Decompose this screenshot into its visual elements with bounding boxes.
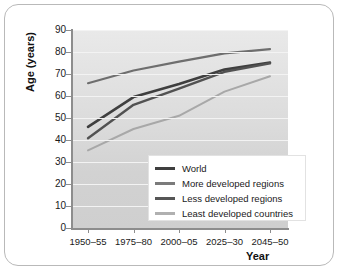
- x-axis-tick: [225, 228, 226, 233]
- gridline: [72, 140, 288, 141]
- x-axis-tick-label: 1975–80: [115, 236, 152, 247]
- y-axis-tick-label: 30: [40, 157, 66, 167]
- y-axis-tick-label: 40: [40, 135, 66, 145]
- chart-legend: WorldMore developed regionsLess develope…: [148, 155, 306, 221]
- legend-item-label: World: [182, 163, 207, 174]
- y-axis-tick: [66, 96, 72, 97]
- y-axis-line: [71, 29, 73, 229]
- gridline: [72, 74, 288, 75]
- legend-swatch-icon: [155, 167, 175, 170]
- x-axis-tick: [179, 228, 180, 233]
- legend-swatch-icon: [155, 182, 175, 185]
- legend-item[interactable]: More developed regions: [155, 176, 299, 191]
- x-axis-title: Year: [246, 250, 269, 262]
- legend-item[interactable]: Less developed regions: [155, 191, 299, 206]
- y-axis-tick: [66, 74, 72, 75]
- gridline: [72, 118, 288, 119]
- x-axis-tick: [134, 228, 135, 233]
- y-axis-tick: [66, 162, 72, 163]
- y-axis-tick-label: 80: [40, 47, 66, 57]
- y-axis-tick: [66, 206, 72, 207]
- legend-swatch-icon: [155, 197, 175, 200]
- legend-item[interactable]: Least developed countries: [155, 206, 299, 221]
- legend-swatch-icon: [155, 212, 175, 214]
- y-axis-tick-label: 20: [40, 179, 66, 189]
- y-axis-tick: [66, 228, 72, 229]
- x-axis-tick-label: 2025–30: [206, 236, 243, 247]
- legend-item-label: Less developed regions: [182, 193, 282, 204]
- y-axis-tick-label: 60: [40, 91, 66, 101]
- y-axis-tick: [66, 118, 72, 119]
- gridline: [72, 30, 288, 31]
- y-axis-tick-label: 50: [40, 113, 66, 123]
- legend-item[interactable]: World: [155, 161, 299, 176]
- y-axis-tick: [66, 30, 72, 31]
- y-axis-tick: [66, 52, 72, 53]
- y-axis-tick: [66, 184, 72, 185]
- x-axis-line: [71, 228, 289, 230]
- x-axis-tick: [88, 228, 89, 233]
- y-axis-tick-label: 90: [40, 25, 66, 35]
- figure: Age (years) 0102030405060708090 1950–551…: [0, 0, 344, 278]
- x-axis-tick-label: 1950–55: [70, 236, 107, 247]
- legend-item-label: Least developed countries: [182, 208, 293, 219]
- x-axis-tick-label: 2000–05: [161, 236, 198, 247]
- gridline: [72, 52, 288, 53]
- y-axis-tick-label: 10: [40, 201, 66, 211]
- y-axis-tick: [66, 140, 72, 141]
- y-axis-title: Age (years): [24, 17, 36, 107]
- y-axis-tick-label: 0: [40, 223, 66, 233]
- x-axis-tick: [270, 228, 271, 233]
- y-axis-tick-label: 70: [40, 69, 66, 79]
- x-axis-tick-label: 2045–50: [252, 236, 289, 247]
- legend-item-label: More developed regions: [182, 178, 284, 189]
- gridline: [72, 96, 288, 97]
